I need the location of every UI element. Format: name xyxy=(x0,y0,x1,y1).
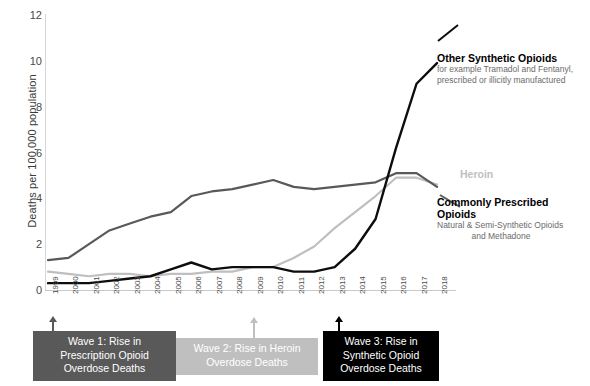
series-line-commonly-prescribed-opioids xyxy=(48,173,437,260)
x-axis-tick-2002: 2002 xyxy=(112,276,121,294)
y-axis-tick-4: 4 xyxy=(36,192,42,204)
x-axis-tick-2017: 2017 xyxy=(420,276,429,294)
x-axis-tick-2015: 2015 xyxy=(379,276,388,294)
annotation-commonly-prescribed-opioids-sub-line1: Natural & Semi-Synthetic Opioids xyxy=(437,220,589,231)
y-axis-tick-8: 8 xyxy=(36,101,42,113)
x-axis-tick-2003: 2003 xyxy=(133,276,142,294)
y-axis-tick-12: 12 xyxy=(30,9,42,21)
annotation-other-synthetic-opioids-sub-line2: prescribed or illicitly manufactured xyxy=(437,75,589,86)
series-line-heroin xyxy=(48,178,437,277)
annotation-other-synthetic-opioids: Other Synthetic Opioids for example Tram… xyxy=(437,52,589,85)
opioid-overdose-waves-chart: Deaths per 100,000 population 024681012 … xyxy=(0,0,590,386)
series-line-other-synthetic-opioids xyxy=(48,63,437,283)
x-axis-tick-2018: 2018 xyxy=(440,276,449,294)
annotation-other-synthetic-opioids-sub-line1: for example Tramadol and Fentanyl, xyxy=(437,64,589,75)
x-axis-tick-2009: 2009 xyxy=(256,276,265,294)
y-axis-tick-10: 10 xyxy=(30,55,42,67)
y-axis-tick-6: 6 xyxy=(36,147,42,159)
annotation-commonly-prescribed-opioids-title: Commonly Prescribed Opioids xyxy=(437,196,589,220)
x-axis-tick-2013: 2013 xyxy=(338,276,347,294)
annotation-leader-line xyxy=(438,25,458,41)
annotation-other-synthetic-opioids-title: Other Synthetic Opioids xyxy=(437,52,589,64)
x-axis-tick-2011: 2011 xyxy=(297,277,306,294)
annotation-heroin-title: Heroin xyxy=(460,168,493,180)
x-axis-tick-2008: 2008 xyxy=(235,276,244,294)
wave-3-label-box: Wave 3: Rise inSynthetic OpioidOverdose … xyxy=(323,331,439,381)
x-axis-tick-2010: 2010 xyxy=(276,276,285,294)
annotation-commonly-prescribed-opioids: Commonly Prescribed Opioids Natural & Se… xyxy=(437,196,589,241)
x-axis-tick-2005: 2005 xyxy=(174,276,183,294)
wave-1-label-line1: Wave 1: Rise in xyxy=(39,335,170,349)
plot-area xyxy=(46,15,455,290)
x-axis-line xyxy=(45,290,456,291)
y-axis-tick-labels: 024681012 xyxy=(18,0,42,300)
wave-2-arrow xyxy=(249,317,258,339)
series-lines xyxy=(46,15,455,290)
x-axis-tick-2000: 2000 xyxy=(71,276,80,294)
x-axis-tick-2016: 2016 xyxy=(399,276,408,294)
wave-3-label-line1: Wave 3: Rise in xyxy=(329,335,433,349)
x-axis-tick-1999: 1999 xyxy=(51,276,60,294)
wave-1-label-box: Wave 1: Rise inPrescription OpioidOverdo… xyxy=(33,331,176,381)
wave-2-label-line1: Wave 2: Rise in Heroin xyxy=(182,342,312,356)
wave-2-label-box: Wave 2: Rise in HeroinOverdose Deaths xyxy=(176,338,318,375)
wave-3-arrow xyxy=(334,316,343,332)
y-axis-tick-0: 0 xyxy=(36,284,42,296)
x-axis-tick-2012: 2012 xyxy=(317,276,326,294)
wave-2-label-line2: Overdose Deaths xyxy=(182,356,312,370)
annotation-commonly-prescribed-opioids-sub-line2: and Methadone xyxy=(437,231,565,242)
x-axis-tick-2001: 2001 xyxy=(92,276,101,294)
wave-1-arrow xyxy=(48,316,57,332)
x-axis-tick-2007: 2007 xyxy=(215,276,224,294)
x-axis-tick-2006: 2006 xyxy=(194,276,203,294)
annotation-heroin: Heroin xyxy=(460,168,493,180)
x-axis-tick-2004: 2004 xyxy=(153,276,162,294)
wave-1-label-line2: Prescription Opioid xyxy=(39,349,170,363)
y-axis-tick-2: 2 xyxy=(36,238,42,250)
wave-3-label-line3: Overdose Deaths xyxy=(329,362,433,376)
wave-3-label-line2: Synthetic Opioid xyxy=(329,349,433,363)
x-axis-tick-2014: 2014 xyxy=(358,276,367,294)
wave-1-label-line3: Overdose Deaths xyxy=(39,362,170,376)
